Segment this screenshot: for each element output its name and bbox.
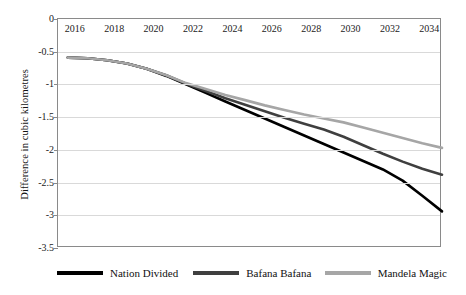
legend-swatch bbox=[57, 271, 103, 274]
line-chart: Difference in cubic kilometres 0-0.5-1-1… bbox=[0, 0, 466, 295]
y-tick-label: -2 bbox=[18, 143, 54, 154]
legend-label: Bafana Bafana bbox=[246, 267, 311, 279]
y-tick-label: 0 bbox=[18, 13, 54, 24]
y-tick-label: -1 bbox=[18, 78, 54, 89]
legend-swatch bbox=[325, 271, 371, 274]
series-lines bbox=[58, 19, 442, 248]
plot-area bbox=[57, 18, 441, 247]
legend-item[interactable]: Mandela Magic bbox=[325, 267, 447, 279]
legend-swatch bbox=[193, 271, 239, 274]
gridline bbox=[58, 183, 440, 184]
y-axis-tick-labels: 0-0.5-1-1.5-2-2.5-3-3.5 bbox=[12, 0, 54, 295]
legend-label: Mandela Magic bbox=[378, 267, 447, 279]
gridline bbox=[58, 150, 440, 151]
y-tick-label: -3.5 bbox=[18, 242, 54, 253]
y-tick-label: -2.5 bbox=[18, 176, 54, 187]
legend-item[interactable]: Nation Divided bbox=[57, 267, 178, 279]
y-tick-label: -0.5 bbox=[18, 45, 54, 56]
chart-legend: Nation DividedBafana BafanaMandela Magic bbox=[57, 262, 447, 284]
legend-item[interactable]: Bafana Bafana bbox=[193, 267, 311, 279]
series-line bbox=[68, 58, 442, 148]
y-tick-label: -3 bbox=[18, 209, 54, 220]
y-tick-label: -1.5 bbox=[18, 111, 54, 122]
gridline bbox=[58, 84, 440, 85]
gridline bbox=[58, 215, 440, 216]
gridline bbox=[58, 117, 440, 118]
gridline bbox=[58, 52, 440, 53]
legend-label: Nation Divided bbox=[110, 267, 178, 279]
y-tick-mark bbox=[54, 19, 58, 20]
y-tick-mark bbox=[54, 248, 58, 249]
